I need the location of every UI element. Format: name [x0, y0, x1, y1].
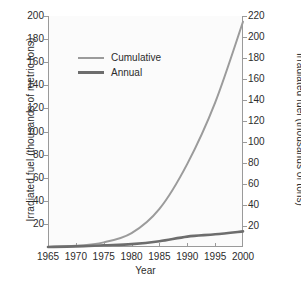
y-axis-right-tick-mark	[243, 163, 247, 164]
legend-label-annual: Annual	[111, 67, 142, 78]
y-axis-right-tick-mark	[243, 79, 247, 80]
legend-swatch-cumulative	[78, 57, 104, 59]
x-axis-tick-label: 1980	[120, 251, 142, 262]
y-axis-right-tick-mark	[243, 37, 247, 38]
y-axis-right-tick-mark	[243, 16, 247, 17]
y-axis-left-tick-mark	[44, 39, 48, 40]
y-axis-left-tick-mark	[44, 178, 48, 179]
legend-item-annual: Annual	[78, 65, 161, 80]
x-axis-tick-label: 1985	[148, 251, 170, 262]
y-axis-right-tick-mark	[243, 184, 247, 185]
y-axis-right-tick-mark	[243, 100, 247, 101]
y-axis-left-tick-mark	[44, 201, 48, 202]
y-axis-right-tick-mark	[243, 226, 247, 227]
y-axis-left-tick-mark	[44, 16, 48, 17]
x-axis-title: Year	[48, 265, 243, 276]
y-axis-right-tick-mark	[243, 205, 247, 206]
x-axis-tick-label: 1970	[65, 251, 87, 262]
series-line-annual	[48, 231, 243, 247]
y-axis-left-title: Irradiated fuel (thousands of metric ton…	[25, 20, 36, 240]
y-axis-right-tick-mark	[243, 58, 247, 59]
y-axis-right-title: Irradiated fuel (thousands of tons)	[295, 20, 302, 240]
legend-item-cumulative: Cumulative	[78, 50, 161, 65]
y-axis-left-tick-mark	[44, 224, 48, 225]
chart-legend: Cumulative Annual	[78, 50, 161, 80]
y-axis-left-tick-mark	[44, 155, 48, 156]
y-axis-left-tick-mark	[44, 62, 48, 63]
x-axis-tick-label: 1965	[37, 251, 59, 262]
y-axis-left-tick-mark	[44, 85, 48, 86]
y-axis-right-tick-mark	[243, 121, 247, 122]
y-axis-left-tick-mark	[44, 132, 48, 133]
x-axis-tick-label: 1990	[176, 251, 198, 262]
y-axis-left-tick-mark	[44, 108, 48, 109]
legend-label-cumulative: Cumulative	[111, 52, 161, 63]
y-axis-right-tick-mark	[243, 142, 247, 143]
x-axis-tick-label: 2000	[232, 251, 254, 262]
chart-container: 20406080100120140160180200 2040608010012…	[0, 0, 301, 283]
x-axis-tick-label: 1975	[93, 251, 115, 262]
legend-swatch-annual	[78, 71, 104, 74]
x-axis-tick-label: 1995	[204, 251, 226, 262]
